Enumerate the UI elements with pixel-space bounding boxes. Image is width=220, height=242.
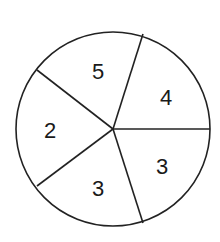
divider-line <box>113 34 143 129</box>
section-label-4: 4 <box>160 85 172 110</box>
spinner-diagram: 5 4 3 3 2 <box>0 0 220 242</box>
section-label-5: 5 <box>92 59 104 84</box>
section-label-3-right: 3 <box>156 154 168 179</box>
divider-line <box>113 129 143 223</box>
section-label-3-bottom: 3 <box>92 176 104 201</box>
section-label-2: 2 <box>44 118 56 143</box>
